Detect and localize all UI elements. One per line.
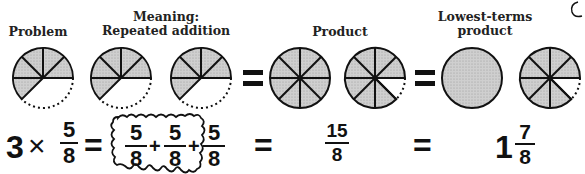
circle-addend-2 xyxy=(171,48,231,108)
equals-3: = xyxy=(413,129,432,161)
circle-lowest-seven-eighths xyxy=(520,48,580,108)
equals-1: = xyxy=(84,129,103,161)
denominator: 8 xyxy=(164,148,186,170)
mixed-fraction: 7 8 xyxy=(515,121,535,167)
equals-sign-2 xyxy=(415,70,435,86)
corner-mark xyxy=(572,2,582,17)
addend-1: 5 8 xyxy=(125,122,147,170)
circle-problem xyxy=(13,48,73,108)
whole-number-3: 3 xyxy=(6,131,24,163)
equals-sign-1 xyxy=(243,70,263,86)
product-fraction: 15 8 xyxy=(325,121,349,165)
addend-3: 5 8 xyxy=(203,122,225,170)
denominator: 8 xyxy=(125,148,147,170)
equals-2: = xyxy=(254,129,273,161)
denominator: 8 xyxy=(515,146,535,167)
plus-1: + xyxy=(149,136,161,156)
plus-2: + xyxy=(188,136,200,156)
circle-addend-1 xyxy=(91,48,151,108)
denominator: 8 xyxy=(203,148,225,170)
numerator: 5 xyxy=(203,122,225,144)
numerator: 5 xyxy=(125,122,147,144)
circle-product-full xyxy=(270,48,330,108)
fraction-multiplicand: 5 8 xyxy=(60,119,78,167)
addend-2: 5 8 xyxy=(164,122,186,170)
denominator: 8 xyxy=(325,145,349,165)
numerator: 15 xyxy=(325,121,349,141)
numerator: 7 xyxy=(515,121,535,142)
mixed-whole: 1 xyxy=(495,131,513,163)
circle-lowest-whole xyxy=(442,48,502,108)
numerator: 5 xyxy=(164,122,186,144)
denominator: 8 xyxy=(60,145,78,167)
circle-product-seven-eighths xyxy=(345,48,405,108)
times-sign: × xyxy=(28,131,46,161)
numerator: 5 xyxy=(60,119,78,141)
